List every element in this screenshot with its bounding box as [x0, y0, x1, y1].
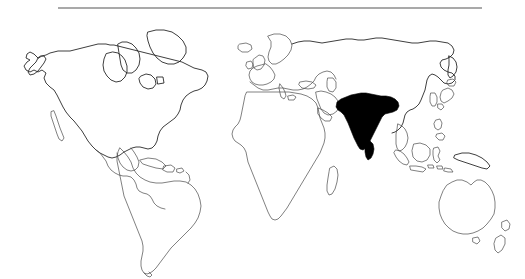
map-background: [0, 0, 525, 279]
world-map-figure: Outline world map with the Indian subcon…: [0, 0, 525, 279]
world-map-canvas: [0, 0, 525, 279]
